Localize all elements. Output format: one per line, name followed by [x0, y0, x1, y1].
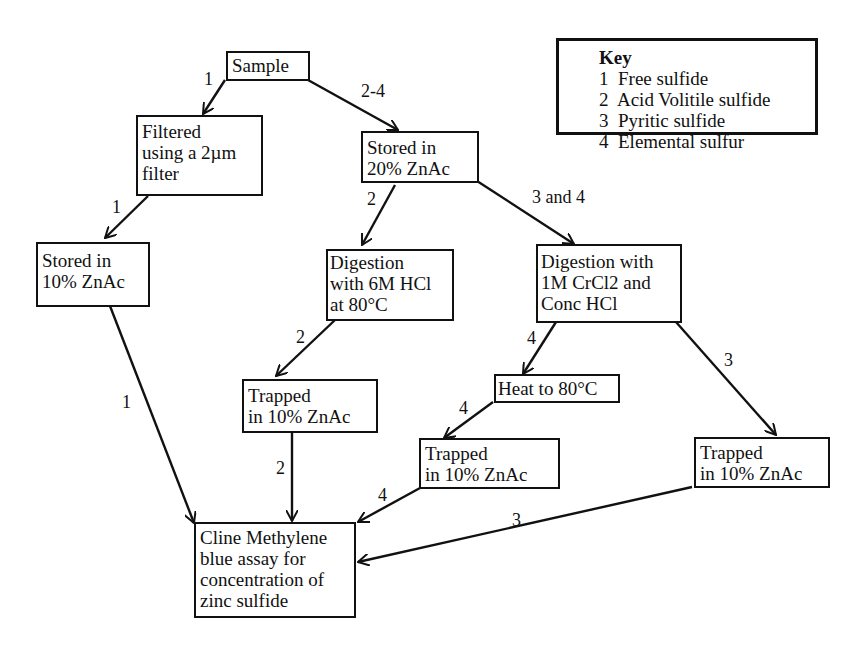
edge-label-crcl2-trapped3: 3 [724, 351, 733, 369]
node-digestion-crcl2: Digestion with 1M CrCl2 and Conc HCl [536, 244, 682, 323]
key-item: 1 Free sulfide [599, 68, 815, 89]
node-sample: Sample [226, 51, 310, 81]
node-digestion-hcl: Digestion with 6M HCl at 80°C [326, 249, 454, 321]
edge-label-trapped2-assay: 2 [276, 459, 285, 477]
edge-label-stored10-assay: 1 [122, 393, 131, 411]
key-legend: Key 1 Free sulfide 2 Acid Volitile sulfi… [556, 38, 818, 135]
edge-stored10-assay [110, 306, 194, 523]
node-stored-10-znac: Stored in 10% ZnAc [36, 242, 150, 307]
key-title: Key [599, 47, 815, 68]
node-trapped-pyritic: Trapped in 10% ZnAc [694, 437, 830, 488]
edge-label-trapped4-assay: 4 [378, 486, 387, 504]
node-methylene-blue-assay: Cline Methylene blue assay for concentra… [194, 522, 356, 618]
node-heat-80c: Heat to 80°C [494, 374, 620, 403]
node-trapped-acid-volatile: Trapped in 10% ZnAc [242, 379, 378, 433]
edge-heat-trapped4 [444, 402, 493, 438]
node-trapped-elemental: Trapped in 10% ZnAc [419, 438, 560, 489]
edge-label-stored20-digestcrcl2: 3 and 4 [532, 188, 585, 206]
edge-label-crcl2-heat: 4 [527, 329, 536, 347]
edge-label-sample-filtered: 1 [204, 70, 213, 88]
node-stored-20-znac: Stored in 20% ZnAc [361, 131, 479, 183]
key-item: 2 Acid Volitile sulfide [599, 89, 815, 110]
edge-label-filtered-stored10: 1 [112, 198, 121, 216]
edge-label-digesthcl-trapped: 2 [296, 328, 305, 346]
edge-label-sample-stored20: 2-4 [361, 82, 385, 100]
edge-label-stored20-digesthcl: 2 [367, 190, 376, 208]
edge-trapped3-assay [358, 487, 692, 562]
edge-label-heat-trapped4: 4 [459, 399, 468, 417]
edge-digesthcl-trapped2 [276, 320, 335, 376]
edge-label-trapped3-assay: 3 [512, 511, 521, 529]
key-item: 4 Elemental sulfur [599, 131, 815, 152]
node-filtered: Filtered using a 2µm filter [136, 115, 263, 196]
edge-trapped4-assay [358, 488, 420, 522]
edge-crcl2-trapped3 [676, 322, 776, 435]
key-item: 3 Pyritic sulfide [599, 110, 815, 131]
